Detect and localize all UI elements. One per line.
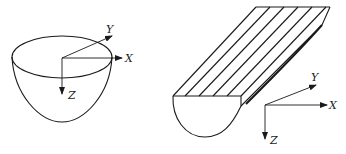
trough-right-edge — [241, 7, 330, 106]
trough-axes — [265, 85, 327, 139]
bowl-axes — [62, 36, 122, 94]
hatch-line — [227, 7, 312, 96]
trough-x-label: X — [328, 99, 338, 112]
bowl-x-label: X — [124, 52, 134, 65]
hatch-line — [213, 7, 298, 96]
parabolic-trough — [173, 7, 330, 137]
trough-front-face — [173, 96, 241, 137]
trough-z-label: Z — [269, 134, 278, 147]
hatch-line — [199, 7, 284, 96]
bowl-z-label: Z — [67, 89, 76, 102]
trough-left-edge — [173, 7, 256, 96]
trough-y-axis — [265, 85, 316, 105]
trough-y-label: Y — [311, 71, 320, 84]
diagram-canvas: X Y Z X Y Z — [0, 0, 346, 154]
bowl-y-label: Y — [106, 23, 115, 36]
hatch-line — [185, 7, 270, 96]
